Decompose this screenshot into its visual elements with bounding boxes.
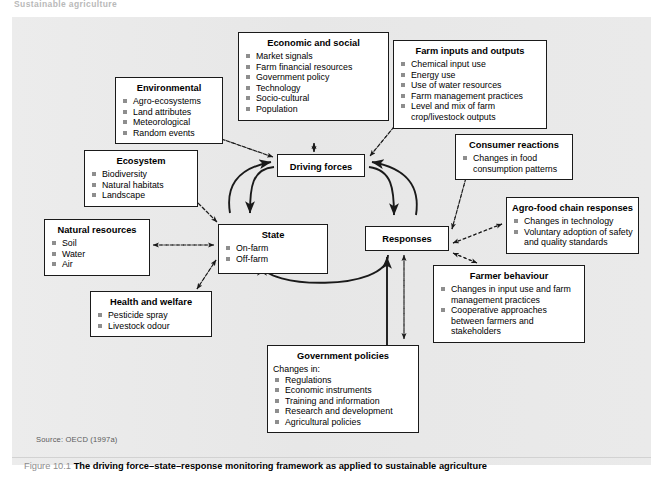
list-item: Farm financial resources [244,62,383,72]
list-item-continuation: crop/livestock outputs [399,112,541,122]
box-item-list: Agro-ecosystems Land attributes Meteorol… [121,96,217,138]
box-title: Farm inputs and outputs [399,46,541,57]
list-item: Pesticide spray [96,310,206,320]
list-item: Regulations [273,375,413,385]
list-item: Livestock odour [96,321,206,331]
box-government-policies[interactable]: Government policies Changes in: Regulati… [267,345,419,433]
list-item: Agricultural policies [273,417,413,427]
figure-caption: Figure 10.1 The driving force–state–resp… [24,461,487,471]
box-item-list: On-farm Off-farm [224,243,322,264]
box-consumer-reactions[interactable]: Consumer reactions Changes in food consu… [455,134,573,180]
list-item: Natural habitats [90,180,192,190]
box-farmer-behaviour[interactable]: Farmer behaviour Changes in input use an… [433,265,585,343]
box-item-list: Changes in food consumption patterns [461,153,567,174]
list-item: Level and mix of farm [399,101,541,111]
list-item-continuation: consumption patterns [461,164,567,174]
list-item: Agro-ecosystems [121,96,217,106]
dsr-framework-diagram: Economic and social Market signals Farm … [12,17,651,465]
list-item: Changes in input use and farm [439,284,579,294]
box-item-list: Pesticide spray Livestock odour [96,310,206,331]
box-item-list: Biodiversity Natural habitats Landscape [90,169,192,200]
list-item: Economic instruments [273,385,413,395]
box-title: Agro-food chain responses [512,203,633,214]
figure-panel: Economic and social Market signals Farm … [12,17,651,465]
figure-source: Source: OECD (1997a) [36,435,118,444]
box-natural-resources[interactable]: Natural resources Soil Water Air [44,219,150,276]
box-health-and-welfare[interactable]: Health and welfare Pesticide spray Lives… [90,291,212,337]
list-item: Water [50,249,144,259]
box-title: Responses [371,234,443,245]
list-item: Market signals [244,51,383,61]
list-item-continuation: and quality standards [512,237,633,247]
list-item: Landscape [90,190,192,200]
box-title: Ecosystem [90,156,192,167]
box-title: Health and welfare [96,297,206,308]
list-item: Air [50,259,144,269]
box-environmental[interactable]: Environmental Agro-ecosystems Land attri… [115,77,223,144]
box-item-list: Chemical input use Energy use Use of wat… [399,59,541,122]
box-state[interactable]: State On-farm Off-farm [218,224,328,274]
list-item: Population [244,104,383,114]
list-item: Voluntary adoption of safety [512,227,633,237]
box-farm-inputs-and-outputs[interactable]: Farm inputs and outputs Chemical input u… [393,40,547,129]
list-item: Use of water resources [399,80,541,90]
box-title: Farmer behaviour [439,271,579,282]
list-item: On-farm [224,243,322,253]
box-title: Driving forces [283,162,359,173]
list-item: Government policy [244,72,383,82]
list-item: Soil [50,238,144,248]
list-item: Meteorological [121,117,217,127]
box-driving-forces[interactable]: Driving forces [277,154,365,177]
list-item-continuation: stakeholders [439,326,579,336]
box-item-list: Changes in input use and farm management… [439,284,579,337]
box-lead-text: Changes in: [273,364,413,375]
link-driving-to-responses [369,167,394,215]
link-driving-to-state [250,167,274,213]
box-title: Government policies [273,351,413,362]
list-item: Off-farm [224,254,322,264]
box-item-list: Market signals Farm financial resources … [244,51,383,114]
list-item: Training and information [273,396,413,406]
box-item-list: Soil Water Air [50,238,144,269]
list-item: Biodiversity [90,169,192,179]
box-title: Economic and social [244,38,383,49]
figure-number: Figure 10.1 [24,461,71,471]
list-item: Changes in technology [512,216,633,226]
box-title: State [224,230,322,241]
box-ecosystem[interactable]: Ecosystem Biodiversity Natural habitats … [84,150,198,207]
figure-caption-text: The driving force–state–response monitor… [74,461,487,471]
box-title: Environmental [121,83,217,94]
list-item: Cooperative approaches [439,305,579,315]
list-item-continuation: management practices [439,295,579,305]
list-item-continuation: between farmers and [439,316,579,326]
box-item-list: Changes in technology Voluntary adoption… [512,216,633,247]
list-item: Research and development [273,406,413,416]
box-title: Natural resources [50,225,144,236]
box-economic-and-social[interactable]: Economic and social Market signals Farm … [238,32,389,121]
box-responses[interactable]: Responses [365,226,449,251]
list-item: Chemical input use [399,59,541,69]
list-item: Socio-cultural [244,93,383,103]
box-agro-food-chain-responses[interactable]: Agro-food chain responses Changes in tec… [506,197,639,254]
running-head: Sustainable agriculture [14,0,214,10]
list-item: Random events [121,128,217,138]
box-item-list: Regulations Economic instruments Trainin… [273,375,413,428]
box-title: Consumer reactions [461,140,567,151]
list-item: Changes in food [461,153,567,163]
list-item: Technology [244,83,383,93]
list-item: Farm management practices [399,91,541,101]
list-item: Land attributes [121,107,217,117]
list-item: Energy use [399,70,541,80]
